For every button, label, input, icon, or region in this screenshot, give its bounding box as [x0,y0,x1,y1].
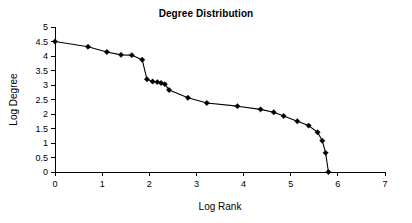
data-point-marker [295,119,300,124]
data-point-marker [144,77,149,82]
data-point-marker [271,110,276,115]
y-tick-label: 2.5 [35,95,48,105]
data-point-marker [281,113,286,118]
y-tick-label: 0 [43,167,48,177]
x-tick-label: 7 [382,179,387,189]
y-axis-ticks: 00.511.522.533.544.55 [35,22,55,177]
data-point-marker [129,52,134,57]
y-tick-label: 3.5 [35,66,48,76]
x-tick-label: 3 [194,179,199,189]
data-point-marker [52,39,57,44]
y-tick-label: 1 [43,138,48,148]
y-tick-label: 0.5 [35,153,48,163]
x-tick-label: 6 [335,179,340,189]
x-tick-label: 5 [288,179,293,189]
data-series-line [55,42,328,173]
chart-container: Degree Distribution 00.511.522.533.544.5… [0,0,412,223]
y-tick-label: 2 [43,109,48,119]
x-tick-label: 1 [100,179,105,189]
data-point-marker [258,107,263,112]
x-tick-label: 0 [52,179,57,189]
y-tick-label: 4.5 [35,37,48,47]
y-tick-label: 1.5 [35,124,48,134]
data-point-markers [52,39,331,175]
data-point-marker [204,100,209,105]
data-point-marker [235,103,240,108]
data-point-marker [323,150,328,155]
data-point-marker [150,79,155,84]
data-point-marker [104,49,109,54]
data-point-marker [140,57,145,62]
x-axis-ticks: 01234567 [52,172,387,189]
chart-plot-area: 00.511.522.533.544.55 01234567 Log Rank … [0,0,412,223]
data-point-marker [118,52,123,57]
y-axis-title: Log Degree [8,73,19,126]
x-axis-title: Log Rank [199,201,243,212]
y-tick-label: 4 [43,51,48,61]
y-tick-label: 3 [43,80,48,90]
data-point-marker [185,95,190,100]
data-point-marker [326,169,331,174]
y-tick-label: 5 [43,22,48,32]
data-point-marker [320,138,325,143]
data-point-marker [85,44,90,49]
x-tick-label: 2 [147,179,152,189]
x-tick-label: 4 [241,179,246,189]
